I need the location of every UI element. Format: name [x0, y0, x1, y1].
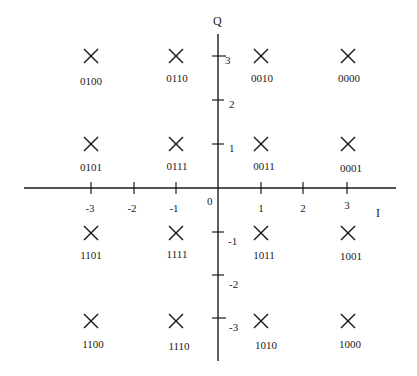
x-marker-icon — [341, 49, 355, 63]
x-marker-icon — [169, 137, 183, 151]
point-code-label: 1100 — [82, 339, 104, 350]
x-marker-icon — [341, 226, 355, 240]
x-marker-icon — [169, 49, 183, 63]
i-axis-label: I — [376, 207, 380, 219]
x-marker-icon — [254, 314, 268, 328]
i-tick-label: -1 — [169, 203, 178, 214]
i-tick-label: -2 — [127, 203, 136, 214]
x-marker-icon — [341, 137, 355, 151]
q-axis-label: Q — [213, 15, 222, 27]
i-tick-label: 3 — [344, 200, 350, 211]
x-marker-icon — [341, 314, 355, 328]
point-code-label: 0101 — [80, 162, 102, 173]
x-marker-icon — [84, 137, 98, 151]
i-tick-label: 1 — [258, 203, 264, 214]
point-code-label: 0001 — [340, 163, 362, 174]
x-marker-icon — [84, 314, 98, 328]
q-tick-label: 2 — [229, 99, 235, 110]
point-code-label: 0111 — [166, 161, 187, 172]
q-tick-label: -2 — [229, 279, 238, 290]
point-code-label: 0100 — [80, 76, 102, 87]
x-marker-icon — [84, 49, 98, 63]
point-code-label: 0011 — [253, 161, 275, 172]
i-tick-label: -3 — [85, 203, 94, 214]
x-marker-icon — [254, 49, 268, 63]
constellation-diagram — [0, 0, 417, 376]
i-tick-label: 2 — [300, 203, 306, 214]
point-code-label: 1010 — [255, 340, 277, 351]
q-axis-ticks — [212, 56, 226, 318]
x-marker-icon — [169, 226, 183, 240]
point-code-label: 1101 — [80, 250, 102, 261]
point-code-label: 0110 — [166, 73, 188, 84]
point-code-label: 1001 — [340, 251, 362, 262]
point-code-label: 1111 — [167, 249, 188, 260]
x-marker-icon — [254, 137, 268, 151]
point-code-label: 0000 — [338, 73, 360, 84]
point-code-label: 1011 — [253, 250, 275, 261]
x-marker-icon — [169, 314, 183, 328]
x-marker-icon — [254, 226, 268, 240]
q-tick-label: -1 — [228, 236, 237, 247]
origin-label: 0 — [207, 196, 213, 207]
point-code-label: 1000 — [339, 339, 361, 350]
point-code-label: 0010 — [251, 73, 273, 84]
point-code-label: 1110 — [168, 341, 189, 352]
x-marker-icon — [84, 226, 98, 240]
q-tick-label: 3 — [225, 55, 231, 66]
q-tick-label: 1 — [229, 143, 235, 154]
q-tick-label: -3 — [229, 322, 238, 333]
